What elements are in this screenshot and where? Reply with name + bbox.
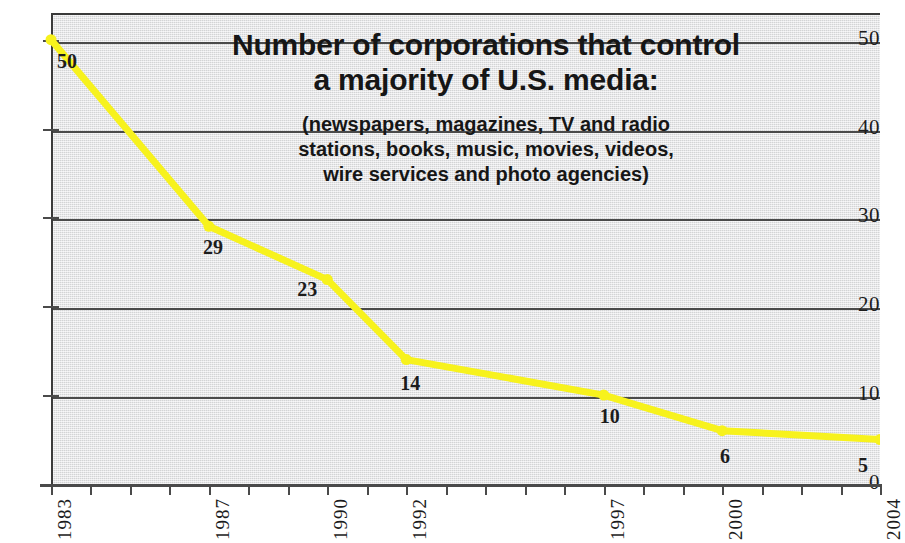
x-tick-label-1990: 1990 [330,498,352,540]
x-tick-1996 [564,484,566,495]
x-tick-2001 [762,484,764,495]
x-tick-2004 [880,484,882,495]
x-tick-1989 [288,484,290,495]
x-tick-label-1997: 1997 [607,498,629,540]
gridline-50 [53,42,880,44]
x-tick-1993 [446,484,448,495]
data-label-1990: 23 [297,278,317,301]
y-tick-20 [43,306,59,308]
data-label-1992: 14 [400,372,420,395]
y-tick-label-10: 10 [840,381,880,406]
data-label-1987: 29 [203,236,223,259]
x-tick-2002 [801,484,803,495]
gridline-10 [53,397,880,399]
y-tick-10 [43,395,59,397]
x-tick-1986 [169,484,171,495]
x-tick-1992 [406,484,408,495]
x-tick-1999 [683,484,685,495]
y-tick-30 [43,217,59,219]
x-tick-1987 [209,484,211,495]
y-tick-label-40: 40 [840,115,880,140]
y-tick-label-30: 30 [840,203,880,228]
x-tick-1988 [248,484,250,495]
gridline-20 [53,308,880,310]
x-tick-2003 [841,484,843,495]
x-tick-2000 [722,484,724,495]
y-tick-label-20: 20 [840,292,880,317]
x-tick-1998 [643,484,645,495]
x-tick-label-1992: 1992 [409,498,431,540]
data-label-1983: 50 [57,50,77,73]
x-tick-1983 [51,484,53,495]
x-tick-1984 [90,484,92,495]
x-tick-label-1983: 1983 [54,498,76,540]
x-tick-1985 [130,484,132,495]
y-tick-40 [43,129,59,131]
x-tick-1997 [604,484,606,495]
x-tick-label-2000: 2000 [725,498,747,540]
x-tick-1995 [525,484,527,495]
plot-area [51,13,880,484]
plot-texture-overlay [53,15,880,484]
data-label-1997: 10 [600,405,620,428]
x-tick-1994 [485,484,487,495]
data-label-2000: 6 [720,445,730,468]
x-tick-label-1987: 1987 [212,498,234,540]
gridline-30 [53,219,880,221]
y-tick-50 [43,40,59,42]
x-tick-label-2004: 2004 [883,498,905,540]
y-tick-label-50: 50 [840,26,880,51]
gridline-40 [53,131,880,133]
data-label-2004: 5 [858,454,868,477]
x-tick-1990 [327,484,329,495]
x-axis-line [40,484,880,487]
x-tick-1991 [367,484,369,495]
